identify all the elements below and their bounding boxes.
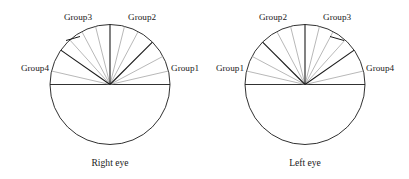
label-group1-left-eye: Group1 [216, 63, 244, 73]
minor-ray-76 [110, 26, 125, 84]
caption-left-eye: Left eye [289, 157, 321, 168]
label-group3-right-eye: Group3 [64, 12, 92, 22]
label-group4-left-eye: Group4 [366, 63, 394, 73]
diagram-left-eye: Group1 Group2 Group3 Group4 Left eye [216, 12, 395, 168]
major-ray-135 [263, 42, 305, 84]
major-rays-left-eye [263, 25, 355, 85]
minor-ray-152 [252, 56, 305, 84]
minor-ray-167 [247, 71, 306, 85]
major-rays-right-eye [61, 25, 153, 85]
figure-canvas: Group1 Group2 Group3 Group4 Right eye [0, 0, 409, 179]
label-group2-right-eye: Group2 [128, 12, 156, 22]
minor-ray-104 [291, 26, 306, 84]
diagram-right-eye: Group1 Group2 Group3 Group4 Right eye [21, 12, 200, 168]
minor-ray-28 [110, 56, 163, 84]
label-group3-left-eye: Group3 [323, 12, 351, 22]
major-ray-45 [110, 42, 152, 84]
label-group1-right-eye: Group1 [171, 63, 199, 73]
eye-sector-figure: Group1 Group2 Group3 Group4 Right eye [0, 0, 409, 179]
minor-ray-13 [110, 71, 169, 85]
minor-ray-62 [110, 32, 138, 85]
label-group2-left-eye: Group2 [259, 12, 287, 22]
caption-right-eye: Right eye [91, 157, 128, 168]
label-group4-right-eye: Group4 [21, 63, 49, 73]
minor-ray-118 [277, 32, 305, 85]
